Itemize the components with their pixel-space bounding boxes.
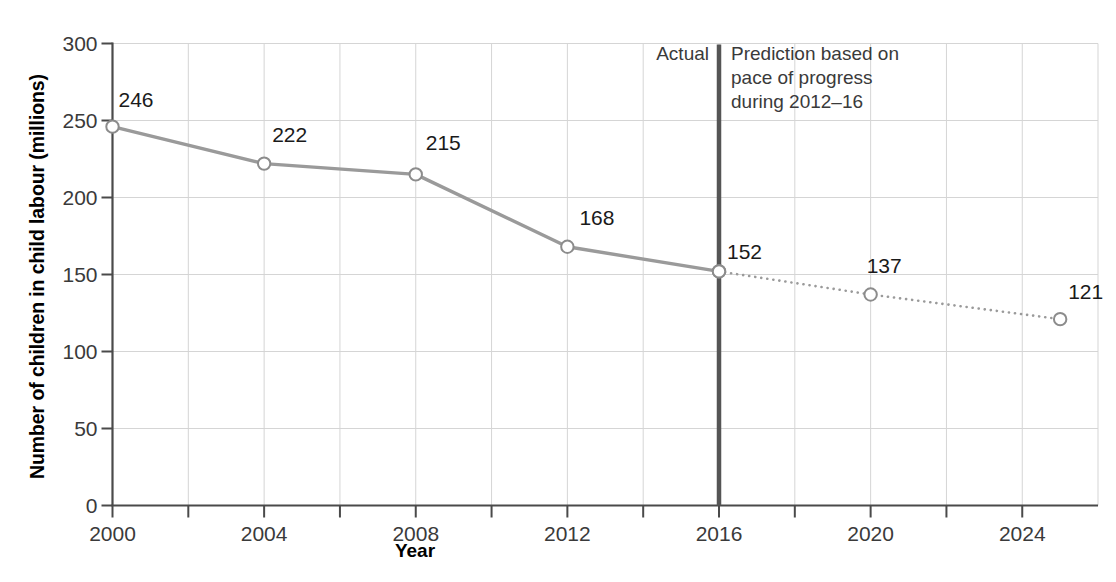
data-point-2012	[561, 241, 573, 253]
x-tick-label-2000: 2000	[58, 523, 168, 544]
data-point-2025	[1054, 313, 1066, 325]
y-tick-label-150: 150	[28, 264, 98, 285]
y-tick-label-100: 100	[28, 341, 98, 362]
x-tick-label-2016: 2016	[664, 523, 774, 544]
x-tick-label-2004: 2004	[209, 523, 319, 544]
data-label-2020: 137	[867, 255, 902, 276]
data-point-2008	[410, 168, 422, 180]
axis-ticks	[102, 44, 1023, 518]
data-label-2016: 152	[727, 241, 762, 262]
data-point-2016	[713, 265, 725, 277]
y-tick-label-0: 0	[28, 495, 98, 516]
data-label-2025: 121	[1068, 281, 1103, 302]
data-label-2004: 222	[272, 124, 307, 145]
data-label-2012: 168	[579, 207, 614, 228]
data-label-2000: 246	[119, 89, 154, 110]
y-tick-label-200: 200	[28, 187, 98, 208]
data-point-2020	[864, 288, 876, 300]
child-labour-line-chart: Number of children in child labour (mill…	[0, 0, 1116, 582]
annotation-actual: Actual	[587, 42, 709, 66]
data-point-2004	[258, 157, 270, 169]
y-tick-label-300: 300	[28, 33, 98, 54]
y-tick-label-50: 50	[28, 418, 98, 439]
series-line-1	[719, 271, 1060, 319]
y-tick-label-250: 250	[28, 110, 98, 131]
data-point-2000	[106, 120, 118, 132]
x-tick-label-2012: 2012	[512, 523, 622, 544]
x-tick-label-2008: 2008	[361, 523, 471, 544]
data-label-2008: 215	[426, 132, 461, 153]
x-tick-label-2020: 2020	[816, 523, 926, 544]
annotation-prediction: Prediction based on pace of progress dur…	[731, 42, 981, 114]
x-tick-label-2024: 2024	[967, 523, 1077, 544]
